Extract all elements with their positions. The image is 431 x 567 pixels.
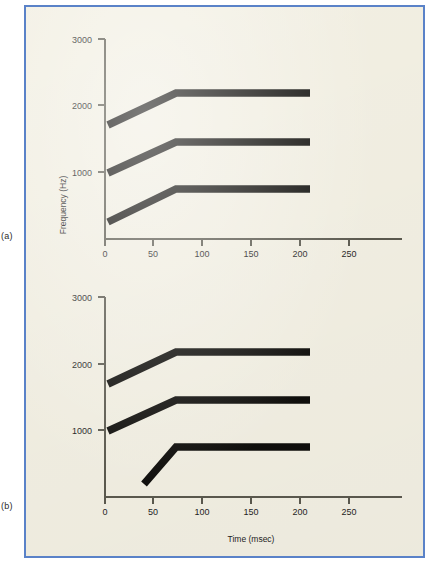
panel-label-b: (b) xyxy=(1,501,13,511)
formant-trace-f2-b xyxy=(108,400,310,431)
chart-a-svg: 3000 2000 1000 0 50 100 150 200 250 xyxy=(26,9,427,277)
x-ticklabel-100-b: 100 xyxy=(194,507,209,517)
chart-b-svg: 3000 2000 1000 0 50 100 150 200 250 Time… xyxy=(26,279,427,558)
chart-panel-b: 3000 2000 1000 0 50 100 150 200 250 Time… xyxy=(26,279,427,558)
figure-plate: 3000 2000 1000 0 50 100 150 200 250 xyxy=(24,5,425,558)
formant-trace-f1-a xyxy=(108,189,310,222)
x-ticklabel-250-b: 250 xyxy=(341,507,356,517)
x-ticklabel-0-b: 0 xyxy=(102,507,107,517)
formant-trace-f2-a xyxy=(108,142,310,173)
chart-panel-a: 3000 2000 1000 0 50 100 150 200 250 xyxy=(26,9,427,277)
x-ticklabel-100-a: 100 xyxy=(194,249,209,259)
figure-root: (a) (b) 3000 2000 1000 xyxy=(0,0,431,567)
y-ticklabel-2000-b: 2000 xyxy=(72,360,92,370)
x-ticklabel-200-a: 200 xyxy=(292,249,307,259)
y-ticklabel-1000-a: 1000 xyxy=(72,168,92,178)
x-ticklabel-150-a: 150 xyxy=(243,249,258,259)
panel-label-a: (a) xyxy=(1,231,13,241)
y-ticklabel-3000-b: 3000 xyxy=(72,293,92,303)
y-ticks-a xyxy=(98,39,105,172)
y-ticklabel-3000-a: 3000 xyxy=(72,35,92,45)
x-ticklabel-250-a: 250 xyxy=(341,249,356,259)
x-ticklabel-0-a: 0 xyxy=(102,249,107,259)
y-ticklabel-1000-b: 1000 xyxy=(72,426,92,436)
formant-trace-f3-b xyxy=(108,352,310,384)
y-ticks-b xyxy=(98,297,105,430)
x-ticklabel-50-a: 50 xyxy=(148,249,158,259)
x-axis-title: Time (msec) xyxy=(228,534,275,544)
formant-trace-f1-b xyxy=(144,447,310,484)
formant-trace-f3-a xyxy=(108,93,310,125)
x-ticklabel-150-b: 150 xyxy=(243,507,258,517)
y-ticklabel-2000-a: 2000 xyxy=(72,101,92,111)
x-ticklabel-50-b: 50 xyxy=(148,507,158,517)
x-ticklabel-200-b: 200 xyxy=(292,507,307,517)
x-ticks-b xyxy=(105,497,349,504)
y-axis-title: Frequency (Hz) xyxy=(58,176,68,235)
x-ticks-a xyxy=(105,239,349,246)
